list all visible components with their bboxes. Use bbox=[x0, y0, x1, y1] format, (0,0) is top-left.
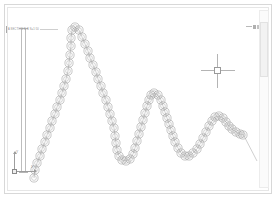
view-marker-dash-icon bbox=[246, 26, 252, 27]
ucs-axis-icon[interactable]: Y X bbox=[11, 150, 39, 176]
crosshair-cursor[interactable] bbox=[201, 54, 235, 88]
dimension-tick-icon bbox=[6, 26, 7, 33]
crosshair-pick-box bbox=[214, 67, 221, 74]
ucs-y-label: Y bbox=[16, 150, 18, 154]
ucs-x-arrow-icon bbox=[34, 169, 37, 173]
ucs-x-label: X bbox=[31, 165, 33, 169]
view-marker-block-icon bbox=[253, 25, 256, 29]
cad-viewport[interactable]: A SECTION B-B S=1:50 Y X bbox=[0, 0, 278, 199]
scrollbar-thumb[interactable] bbox=[260, 22, 268, 77]
ucs-origin-square bbox=[12, 169, 17, 174]
annotation-text: A SECTION B-B S=1:50 bbox=[8, 25, 39, 33]
annotation-label[interactable]: A SECTION B-B S=1:50 bbox=[6, 24, 58, 35]
annotation-leader-line bbox=[40, 29, 58, 30]
ucs-x-axis-line bbox=[14, 171, 36, 172]
